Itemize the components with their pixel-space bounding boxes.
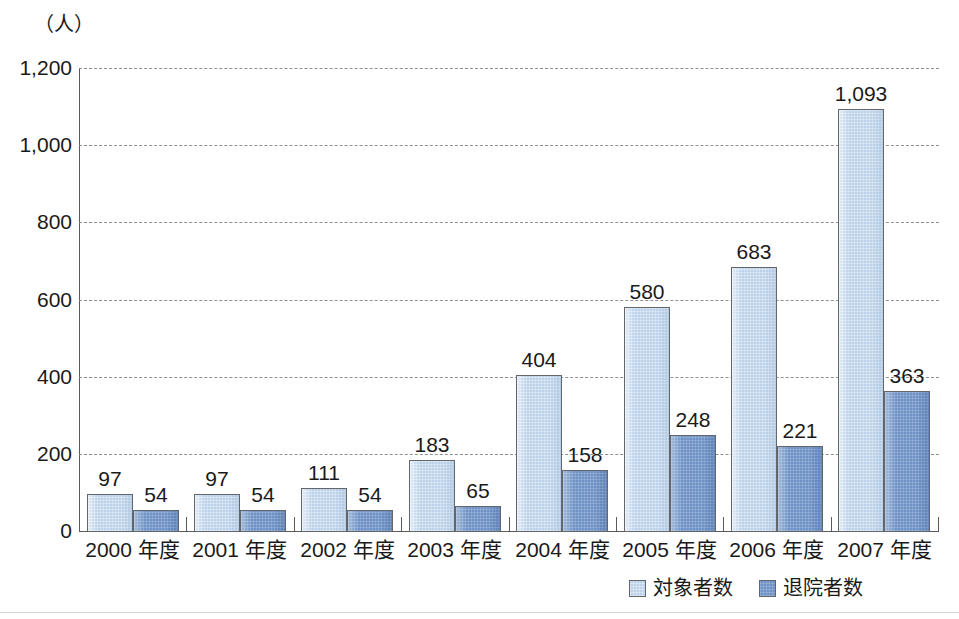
gridline: [79, 300, 939, 301]
bar-value-label: 363: [862, 365, 952, 386]
y-axis-tick-label: 800: [4, 211, 72, 232]
y-axis-tick-label: 600: [4, 289, 72, 310]
bar-target[interactable]: [838, 109, 884, 532]
bar-chart: （人） 02004006008001,0001,200 975497541115…: [0, 0, 959, 619]
y-axis-tick-label: 1,000: [4, 134, 72, 155]
bar-value-label: 1,093: [816, 83, 906, 104]
x-axis-category-label: 2005 年度: [616, 538, 723, 562]
bar-discharge[interactable]: [133, 510, 179, 532]
bar-value-label: 580: [602, 281, 692, 302]
y-axis-tick-label: 400: [4, 366, 72, 387]
x-axis-category-label: 2003 年度: [401, 538, 508, 562]
bar-value-label: 65: [433, 480, 523, 501]
bar-value-label: 221: [755, 420, 845, 441]
gridline: [79, 145, 939, 146]
bar-discharge[interactable]: [884, 391, 930, 532]
gridline: [79, 222, 939, 223]
bar-value-label: 248: [648, 409, 738, 430]
legend: 対象者数 退院者数: [629, 578, 863, 598]
legend-item-target[interactable]: 対象者数: [629, 578, 733, 598]
legend-swatch-discharge-icon: [759, 580, 776, 597]
x-axis-category-label: 2002 年度: [294, 538, 401, 562]
legend-label-discharge: 退院者数: [783, 578, 863, 598]
bar-value-label: 54: [218, 484, 308, 505]
x-axis-category-label: 2004 年度: [509, 538, 616, 562]
y-axis-tick-label: 1,200: [4, 57, 72, 78]
bar-discharge[interactable]: [670, 435, 716, 532]
x-axis-category-label: 2007 年度: [831, 538, 938, 562]
gridline: [79, 68, 939, 69]
legend-swatch-target-icon: [629, 580, 646, 597]
y-axis-tick-label: 200: [4, 443, 72, 464]
bar-discharge[interactable]: [777, 446, 823, 532]
y-axis-tick-label: 0: [4, 520, 72, 541]
x-axis-category-tick: [186, 517, 187, 532]
bar-value-label: 683: [709, 241, 799, 262]
bar-value-label: 183: [387, 434, 477, 455]
bar-discharge[interactable]: [347, 510, 393, 532]
x-axis-category-tick: [616, 517, 617, 532]
bar-value-label: 158: [540, 444, 630, 465]
bar-value-label: 111: [279, 462, 369, 483]
bar-target[interactable]: [731, 267, 777, 532]
x-axis-category-label: 2000 年度: [79, 538, 186, 562]
bar-discharge[interactable]: [455, 506, 501, 532]
bar-value-label: 404: [494, 349, 584, 370]
scan-artifact-line: [0, 612, 959, 613]
x-axis-category-tick: [509, 517, 510, 532]
y-axis-unit-caption: （人）: [34, 8, 94, 37]
x-axis-category-tick: [723, 517, 724, 532]
x-axis-category-label: 2001 年度: [186, 538, 293, 562]
legend-item-discharge[interactable]: 退院者数: [759, 578, 863, 598]
x-axis-right-end-tick: [938, 517, 939, 532]
bar-discharge[interactable]: [240, 510, 286, 532]
x-axis-category-tick: [401, 517, 402, 532]
x-axis-category-label: 2006 年度: [723, 538, 830, 562]
x-axis-category-tick: [294, 517, 295, 532]
x-axis-category-tick: [831, 517, 832, 532]
legend-label-target: 対象者数: [653, 578, 733, 598]
bar-value-label: 54: [325, 484, 415, 505]
gridline: [79, 377, 939, 378]
bar-discharge[interactable]: [562, 470, 608, 532]
